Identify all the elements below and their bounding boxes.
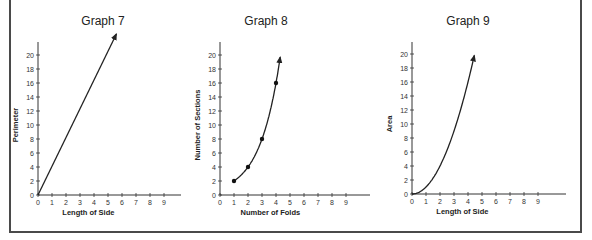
y-tick-label: 14 <box>26 94 34 101</box>
y-tick-label: 4 <box>30 164 34 171</box>
data-point <box>246 165 250 169</box>
y-tick-label: 10 <box>400 121 408 128</box>
x-tick-label: 4 <box>274 199 278 206</box>
x-tick-label: 8 <box>522 198 526 205</box>
y-tick-label: 12 <box>208 108 216 115</box>
y-tick-label: 2 <box>404 177 408 184</box>
y-tick-label: 14 <box>400 93 408 100</box>
x-tick-label: 1 <box>50 199 54 206</box>
x-tick-label: 5 <box>288 199 292 206</box>
x-tick-label: 0 <box>218 199 222 206</box>
y-tick-label: 8 <box>212 136 216 143</box>
x-axis-label: Length of Side <box>436 207 488 216</box>
y-axis-label: Area <box>385 115 394 133</box>
y-tick-label: 16 <box>208 80 216 87</box>
x-tick-label: 7 <box>134 199 138 206</box>
y-tick-label: 4 <box>404 163 408 170</box>
x-tick-label: 6 <box>302 199 306 206</box>
y-tick-label: 0 <box>30 192 34 199</box>
x-tick-label: 4 <box>466 198 470 205</box>
x-tick-label: 4 <box>92 199 96 206</box>
y-tick-label: 18 <box>400 65 408 72</box>
y-tick-label: 2 <box>212 178 216 185</box>
x-tick-label: 9 <box>344 199 348 206</box>
y-tick-label: 4 <box>212 164 216 171</box>
y-axis-label: Number of Sections <box>193 90 202 161</box>
x-tick-label: 9 <box>536 198 540 205</box>
chart-title: Graph 9 <box>446 14 490 28</box>
y-tick-label: 6 <box>30 150 34 157</box>
y-tick-label: 10 <box>208 122 216 129</box>
y-tick-label: 0 <box>404 191 408 198</box>
x-tick-label: 2 <box>246 199 250 206</box>
x-tick-label: 0 <box>36 199 40 206</box>
y-tick-label: 6 <box>212 150 216 157</box>
data-point <box>260 137 264 141</box>
y-tick-label: 18 <box>26 66 34 73</box>
y-tick-label: 18 <box>208 66 216 73</box>
chart-title: Graph 8 <box>244 14 288 28</box>
y-tick-label: 20 <box>208 52 216 59</box>
x-tick-label: 5 <box>106 199 110 206</box>
graph-8: Graph 8012345678902468101214161820Number… <box>193 14 370 217</box>
y-tick-label: 14 <box>208 94 216 101</box>
y-tick-label: 0 <box>212 192 216 199</box>
x-tick-label: 7 <box>316 199 320 206</box>
y-tick-label: 16 <box>400 79 408 86</box>
x-axis-label: Number of Folds <box>241 208 301 217</box>
x-tick-label: 1 <box>232 199 236 206</box>
y-tick-label: 2 <box>30 178 34 185</box>
series-line <box>38 34 116 195</box>
x-tick-label: 9 <box>162 199 166 206</box>
y-tick-label: 20 <box>400 51 408 58</box>
x-tick-label: 6 <box>120 199 124 206</box>
x-axis-label: Length of Side <box>62 208 114 217</box>
series-line <box>234 57 280 181</box>
data-point <box>274 81 278 85</box>
y-tick-label: 20 <box>26 52 34 59</box>
y-tick-label: 6 <box>404 149 408 156</box>
y-tick-label: 8 <box>404 135 408 142</box>
y-tick-label: 12 <box>400 107 408 114</box>
x-tick-label: 8 <box>148 199 152 206</box>
x-tick-label: 5 <box>480 198 484 205</box>
x-tick-label: 3 <box>78 199 82 206</box>
graphs-canvas: Graph 7012345678902468101214161820Length… <box>0 0 592 240</box>
x-tick-label: 7 <box>508 198 512 205</box>
x-tick-label: 0 <box>410 198 414 205</box>
data-point <box>232 179 236 183</box>
chart-title: Graph 7 <box>81 14 125 28</box>
x-tick-label: 1 <box>424 198 428 205</box>
graph-9: Graph 9012345678902468101214161820Length… <box>385 14 566 216</box>
y-tick-label: 16 <box>26 80 34 87</box>
x-tick-label: 6 <box>494 198 498 205</box>
y-tick-label: 12 <box>26 108 34 115</box>
x-tick-label: 2 <box>438 198 442 205</box>
x-tick-label: 3 <box>452 198 456 205</box>
y-tick-label: 8 <box>30 136 34 143</box>
y-tick-label: 10 <box>26 122 34 129</box>
graph-7: Graph 7012345678902468101214161820Length… <box>11 14 181 217</box>
x-tick-label: 8 <box>330 199 334 206</box>
x-tick-label: 3 <box>260 199 264 206</box>
x-tick-label: 2 <box>64 199 68 206</box>
series-line <box>412 55 474 194</box>
y-axis-label: Perimeter <box>11 108 20 143</box>
